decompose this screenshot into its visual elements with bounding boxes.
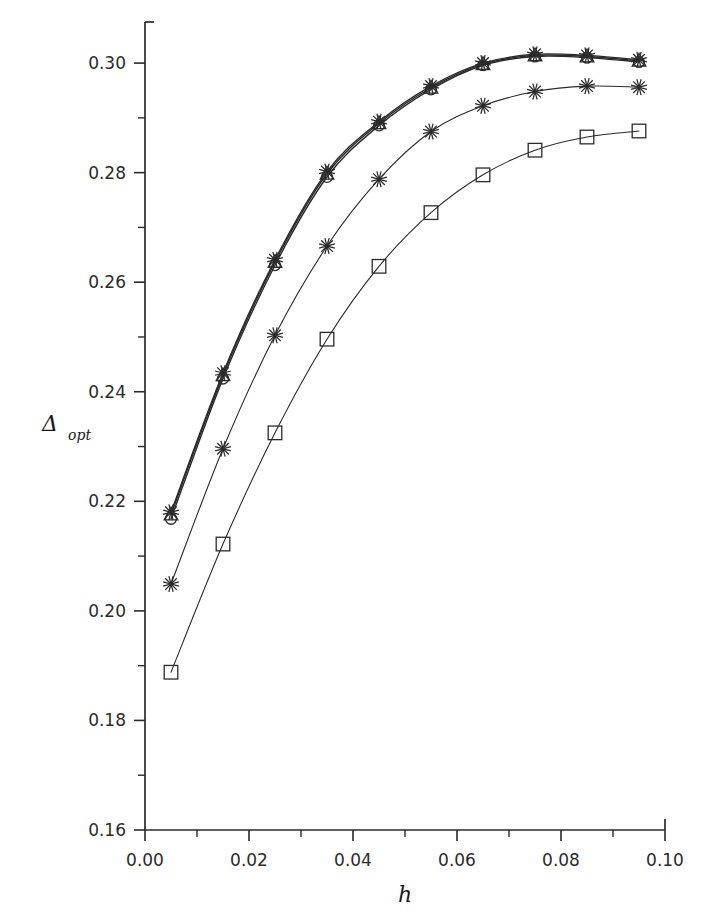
- x-tick-label: 0.10: [646, 850, 684, 870]
- square-marker: [424, 206, 438, 220]
- y-tick-label: 0.22: [88, 491, 126, 511]
- figure-container: 0.160.180.200.220.240.260.280.300.000.02…: [0, 0, 717, 922]
- line-chart: 0.160.180.200.220.240.260.280.300.000.02…: [0, 0, 717, 922]
- square-marker: [216, 537, 230, 551]
- square-marker: [268, 426, 282, 440]
- x-tick-label: 0.04: [334, 850, 372, 870]
- square-marker: [164, 665, 178, 679]
- square-marker: [580, 130, 594, 144]
- y-tick-label: 0.24: [88, 382, 126, 402]
- square-marker: [372, 260, 386, 274]
- y-tick-label: 0.26: [88, 272, 126, 292]
- y-tick-label: 0.28: [88, 163, 126, 183]
- y-axis-title: Δ: [41, 411, 58, 436]
- y-tick-label: 0.30: [88, 53, 126, 73]
- y-tick-label: 0.20: [88, 601, 126, 621]
- x-axis-title: h: [398, 882, 412, 907]
- square-marker: [476, 168, 490, 182]
- x-tick-label: 0.06: [438, 850, 476, 870]
- square-marker: [320, 332, 334, 346]
- y-tick-label: 0.16: [88, 820, 126, 840]
- y-axis-title-subscript: opt: [68, 427, 91, 443]
- x-tick-label: 0.02: [230, 850, 268, 870]
- square-marker: [528, 143, 542, 157]
- square-marker: [632, 124, 646, 138]
- x-tick-label: 0.00: [126, 850, 164, 870]
- x-tick-label: 0.08: [542, 850, 580, 870]
- y-tick-label: 0.18: [88, 710, 126, 730]
